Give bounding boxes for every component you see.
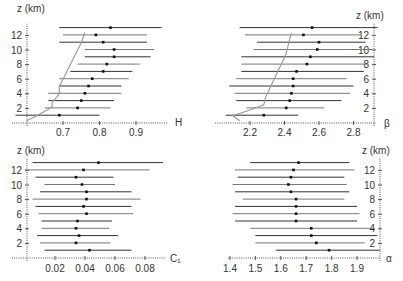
mean-marker bbox=[295, 205, 298, 208]
mean-marker bbox=[290, 176, 293, 179]
mean-marker bbox=[85, 191, 88, 194]
mean-marker bbox=[292, 169, 295, 172]
x-axis-title: β bbox=[384, 118, 390, 129]
figure: 0.70.80.924681012Hz (km) 2.22.42.62.8246… bbox=[0, 0, 403, 281]
mean-marker bbox=[97, 161, 100, 164]
x-tick-label: 1.9 bbox=[350, 263, 364, 274]
x-tick-label: 2.8 bbox=[347, 127, 361, 138]
y-tick-label: 10 bbox=[11, 180, 23, 191]
x-tick-label: 0.08 bbox=[135, 263, 155, 274]
mean-marker bbox=[109, 26, 112, 29]
y-tick-label: 12 bbox=[11, 165, 23, 176]
y-tick-label: 4 bbox=[16, 88, 22, 99]
mean-marker bbox=[302, 34, 305, 37]
mean-marker bbox=[295, 198, 298, 201]
y-tick-label: 6 bbox=[16, 209, 22, 220]
mean-marker bbox=[318, 41, 321, 44]
mean-marker bbox=[113, 48, 116, 51]
mean-marker bbox=[311, 26, 314, 29]
x-axis-title: H bbox=[175, 117, 182, 128]
mean-marker bbox=[290, 92, 293, 95]
y-tick-label: 12 bbox=[11, 30, 23, 41]
y-tick-label: 2 bbox=[16, 238, 22, 249]
mean-marker bbox=[102, 70, 105, 73]
mean-marker bbox=[106, 63, 109, 66]
mean-marker bbox=[75, 227, 78, 230]
mean-marker bbox=[85, 212, 88, 215]
mean-marker bbox=[285, 107, 288, 110]
y-tick-label: 6 bbox=[16, 74, 22, 85]
mean-marker bbox=[295, 70, 298, 73]
x-axis-title: α bbox=[386, 253, 392, 264]
mean-marker bbox=[288, 99, 291, 102]
mean-marker bbox=[84, 92, 87, 95]
mean-marker bbox=[75, 176, 78, 179]
y-tick-label: 2 bbox=[369, 238, 375, 249]
y-tick-label: 2 bbox=[363, 103, 369, 114]
y-axis-title: z (km) bbox=[362, 145, 390, 156]
mean-marker bbox=[316, 48, 319, 51]
mean-marker bbox=[95, 34, 98, 37]
y-tick-label: 8 bbox=[369, 194, 375, 205]
mean-marker bbox=[292, 85, 295, 88]
y-tick-label: 4 bbox=[363, 88, 369, 99]
x-tick-label: 0.7 bbox=[56, 127, 70, 138]
panel-c1: 0.020.040.060.0824681012C₁z (km) bbox=[11, 145, 181, 274]
mean-marker bbox=[328, 249, 331, 252]
mean-marker bbox=[80, 99, 83, 102]
y-tick-label: 6 bbox=[369, 209, 375, 220]
mean-marker bbox=[88, 249, 91, 252]
mean-marker bbox=[310, 227, 313, 230]
x-tick-label: 0.8 bbox=[93, 127, 107, 138]
panel-alpha: 1.41.51.61.71.81.924681012αz (km) bbox=[223, 145, 392, 274]
mean-marker bbox=[287, 183, 290, 186]
x-tick-label: 1.4 bbox=[223, 263, 237, 274]
y-tick-label: 8 bbox=[16, 59, 22, 70]
mean-marker bbox=[81, 183, 84, 186]
x-tick-label: 0.04 bbox=[75, 263, 95, 274]
panel-beta: 2.22.42.62.824681012βz (km) bbox=[215, 10, 390, 138]
mean-marker bbox=[76, 220, 79, 223]
mean-marker bbox=[82, 169, 85, 172]
y-axis-title: z (km) bbox=[17, 3, 45, 14]
x-tick-label: 2.6 bbox=[312, 127, 326, 138]
mean-marker bbox=[87, 85, 90, 88]
mean-marker bbox=[306, 63, 309, 66]
mean-marker bbox=[315, 242, 318, 245]
mean-marker bbox=[309, 56, 312, 59]
x-tick-label: 1.6 bbox=[274, 263, 288, 274]
x-axis-title: C₁ bbox=[170, 253, 181, 264]
mean-marker bbox=[295, 220, 298, 223]
mean-marker bbox=[292, 77, 295, 80]
mean-marker bbox=[58, 114, 61, 117]
mean-marker bbox=[263, 114, 266, 117]
x-tick-label: 0.02 bbox=[45, 263, 65, 274]
y-tick-label: 4 bbox=[16, 223, 22, 234]
x-tick-label: 2.2 bbox=[243, 127, 257, 138]
mean-marker bbox=[290, 191, 293, 194]
y-axis-title: z (km) bbox=[17, 145, 45, 156]
y-tick-label: 10 bbox=[11, 45, 23, 56]
y-tick-label: 2 bbox=[16, 103, 22, 114]
mean-marker bbox=[310, 234, 313, 237]
x-tick-label: 1.5 bbox=[248, 263, 262, 274]
mean-marker bbox=[297, 161, 300, 164]
mean-marker bbox=[91, 77, 94, 80]
x-tick-label: 0.06 bbox=[105, 263, 125, 274]
y-axis-title: z (km) bbox=[356, 10, 384, 21]
y-tick-label: 10 bbox=[364, 180, 376, 191]
panel-h: 0.70.80.924681012Hz (km) bbox=[11, 3, 182, 138]
mean-marker bbox=[113, 56, 116, 59]
x-tick-label: 2.4 bbox=[278, 127, 292, 138]
x-tick-label: 1.7 bbox=[299, 263, 313, 274]
mean-marker bbox=[102, 41, 105, 44]
mean-marker bbox=[82, 205, 85, 208]
x-tick-label: 1.8 bbox=[325, 263, 339, 274]
mean-marker bbox=[76, 107, 79, 110]
mean-marker bbox=[78, 234, 81, 237]
x-tick-label: 0.9 bbox=[129, 127, 143, 138]
mean-marker bbox=[295, 212, 298, 215]
mean-marker bbox=[85, 198, 88, 201]
y-tick-label: 12 bbox=[364, 165, 376, 176]
y-tick-label: 8 bbox=[16, 194, 22, 205]
